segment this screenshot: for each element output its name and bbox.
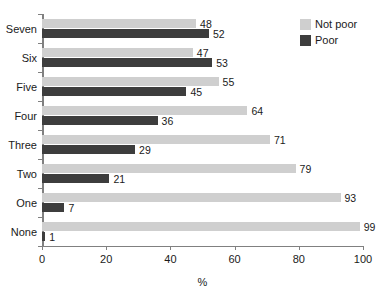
- bar-group: Five5545: [42, 72, 363, 101]
- y-axis-category-label: Six: [22, 52, 37, 64]
- y-axis-category-label: One: [16, 197, 37, 209]
- bar-not-poor[interactable]: [42, 135, 270, 144]
- y-axis-category-label: None: [11, 226, 37, 238]
- bar-poor[interactable]: [42, 174, 109, 183]
- y-axis-tick: [38, 43, 42, 44]
- bar-value-label: 21: [113, 175, 125, 184]
- bar-value-label: 64: [251, 107, 263, 116]
- y-axis-tick: [38, 72, 42, 73]
- bar-poor[interactable]: [42, 87, 186, 96]
- bar-value-label: 52: [213, 30, 225, 39]
- bar-value-label: 71: [274, 136, 286, 145]
- y-axis-tick: [38, 101, 42, 102]
- bar-group: Two7921: [42, 159, 363, 188]
- y-axis-category-label: Two: [17, 168, 37, 180]
- x-axis-tick-label: 60: [228, 253, 240, 265]
- bar-not-poor[interactable]: [42, 106, 247, 115]
- bar-poor[interactable]: [42, 203, 64, 212]
- bar-value-label: 93: [345, 194, 357, 203]
- x-axis-title: %: [42, 276, 363, 286]
- bar-value-label: 48: [200, 20, 212, 29]
- y-axis-tick: [38, 159, 42, 160]
- x-axis-line: [42, 246, 363, 247]
- bar-not-poor[interactable]: [42, 48, 193, 57]
- x-axis-tick: [363, 246, 364, 250]
- x-axis-tick-label: 20: [100, 253, 112, 265]
- bar-not-poor[interactable]: [42, 164, 296, 173]
- y-axis-tick: [38, 130, 42, 131]
- bar-value-label: 99: [364, 223, 376, 232]
- bar-not-poor[interactable]: [42, 193, 341, 202]
- bar-group: None991: [42, 217, 363, 246]
- x-axis-tick: [299, 246, 300, 250]
- bar-group: Seven4852: [42, 14, 363, 43]
- x-axis-tick-label: 40: [164, 253, 176, 265]
- bar-value-label: 36: [162, 117, 174, 126]
- bar-poor[interactable]: [42, 116, 158, 125]
- bar-group: Six4753: [42, 43, 363, 72]
- plot-area: % 020406080100Seven4852Six4753Five5545Fo…: [42, 14, 363, 246]
- bar-poor[interactable]: [42, 145, 135, 154]
- y-axis-tick: [38, 217, 42, 218]
- bar-not-poor[interactable]: [42, 19, 196, 28]
- x-axis-tick: [42, 246, 43, 250]
- x-axis-tick: [106, 246, 107, 250]
- bar-poor[interactable]: [42, 232, 45, 241]
- bar-value-label: 29: [139, 146, 151, 155]
- bar-value-label: 53: [216, 59, 228, 68]
- bar-poor[interactable]: [42, 58, 212, 67]
- bar-poor[interactable]: [42, 29, 209, 38]
- bar-value-label: 79: [300, 165, 312, 174]
- bar-value-label: 7: [68, 204, 74, 213]
- y-axis-tick: [38, 246, 42, 247]
- y-axis-category-label: Seven: [6, 23, 37, 35]
- y-axis-category-label: Five: [16, 81, 37, 93]
- x-axis-tick: [170, 246, 171, 250]
- bar-group: Four6436: [42, 101, 363, 130]
- bar-not-poor[interactable]: [42, 77, 219, 86]
- bar-value-label: 55: [223, 78, 235, 87]
- bar-value-label: 1: [49, 233, 55, 242]
- x-axis-tick-label: 0: [39, 253, 45, 265]
- x-axis-tick: [235, 246, 236, 250]
- bar-value-label: 45: [190, 88, 202, 97]
- bar-not-poor[interactable]: [42, 222, 360, 231]
- bar-value-label: 47: [197, 49, 209, 58]
- x-axis-tick-label: 80: [293, 253, 305, 265]
- bar-group: One937: [42, 188, 363, 217]
- y-axis-tick: [38, 14, 42, 15]
- bar-chart: Not poorPoor % 020406080100Seven4852Six4…: [0, 0, 386, 286]
- bar-group: Three7129: [42, 130, 363, 159]
- x-axis-tick-label: 100: [354, 253, 372, 265]
- y-axis-category-label: Three: [8, 139, 37, 151]
- y-axis-tick: [38, 188, 42, 189]
- y-axis-category-label: Four: [14, 110, 37, 122]
